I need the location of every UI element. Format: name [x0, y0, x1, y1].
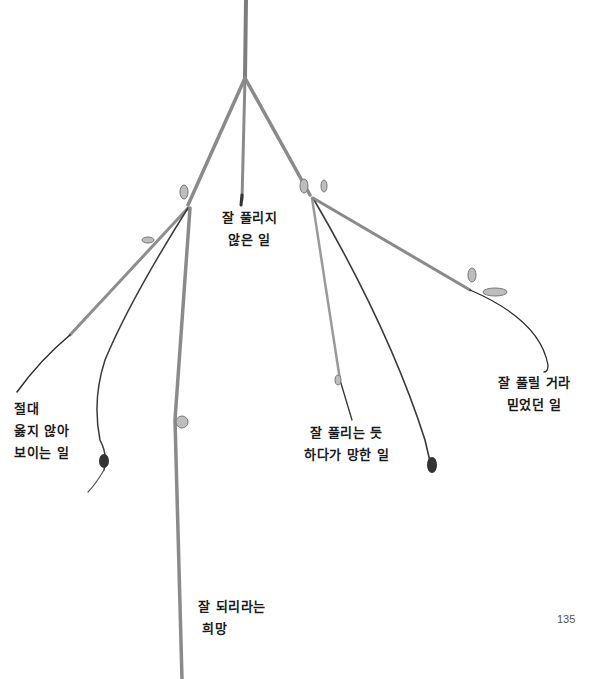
label-line: 희망: [198, 618, 266, 640]
label-line: 보이는 일: [14, 442, 69, 464]
label-line: 않은 일: [222, 229, 277, 251]
left-branch: [188, 78, 245, 205]
label-unresolved: 잘 풀리지 않은 일: [222, 207, 277, 251]
bottom-long-branch: [175, 208, 190, 679]
right-far-branch: [313, 198, 470, 290]
page-number: 135: [557, 613, 575, 625]
label-line: 옳지 않아: [14, 420, 69, 442]
right-inner-branch: [312, 198, 340, 380]
label-ruined: 잘 풀리는 듯 하다가 망한 일: [304, 422, 389, 466]
right-branch: [245, 78, 310, 195]
label-line: 하다가 망한 일: [304, 444, 389, 466]
label-line: 믿었던 일: [498, 394, 571, 416]
label-line: 절대: [14, 398, 69, 420]
main-stem: [245, 0, 246, 78]
center-stem: [242, 78, 245, 200]
label-line: 잘 풀리지: [222, 207, 277, 229]
label-line: 잘 풀릴 거라: [498, 372, 571, 394]
left-far-branch: [70, 208, 188, 335]
branching-stems-illustration: [0, 0, 615, 679]
label-hope: 잘 되리라는 희망: [198, 596, 266, 640]
label-believed: 잘 풀릴 거라 믿었던 일: [498, 372, 571, 416]
label-line: 잘 되리라는: [198, 596, 266, 618]
label-line: 잘 풀리는 듯: [304, 422, 389, 444]
label-never-right: 절대 옳지 않아 보이는 일: [14, 398, 69, 464]
